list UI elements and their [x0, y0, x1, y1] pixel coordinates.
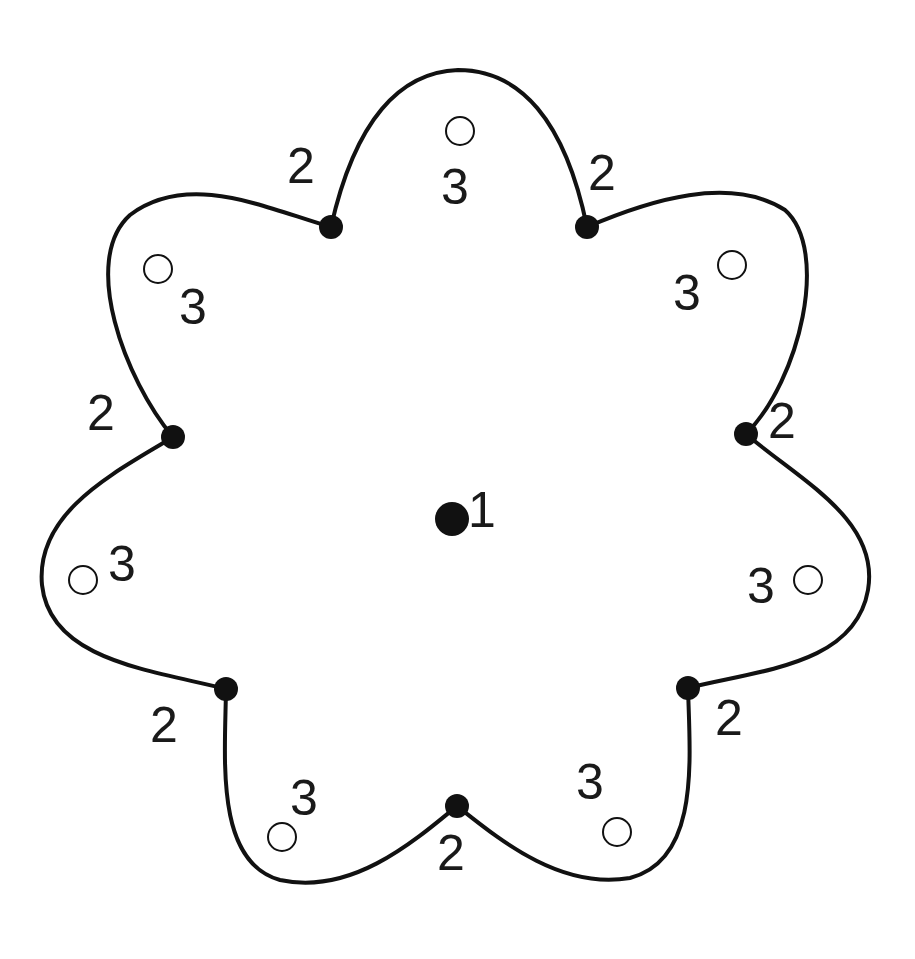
vertex-label: 2: [287, 138, 315, 194]
vertex-label: 2: [437, 825, 465, 881]
open-circle-label: 3: [179, 279, 207, 335]
vertex-dot: [319, 215, 343, 239]
open-circle: [144, 255, 172, 283]
vertex-dot: [575, 215, 599, 239]
open-circle: [446, 117, 474, 145]
vertex-dot: [445, 794, 469, 818]
open-circle-label: 3: [441, 159, 469, 215]
center-dot: [435, 502, 469, 536]
open-circle-label: 3: [290, 770, 318, 826]
open-circle: [268, 823, 296, 851]
vertex-dot: [734, 422, 758, 446]
vertex-label: 2: [150, 697, 178, 753]
diagram-canvas: 2222222 3333333 1: [0, 0, 915, 959]
vertex-label: 2: [768, 393, 796, 449]
open-circle-label: 3: [673, 265, 701, 321]
open-circle: [69, 566, 97, 594]
flower-diagram: 2222222 3333333 1: [0, 0, 915, 959]
open-circle: [603, 818, 631, 846]
open-circle-label: 3: [576, 754, 604, 810]
vertex-dot: [214, 677, 238, 701]
vertex-label: 2: [87, 385, 115, 441]
open-circle: [794, 566, 822, 594]
vertex-dot: [161, 425, 185, 449]
vertex-label: 2: [588, 145, 616, 201]
center-label: 1: [468, 482, 496, 538]
vertex-label: 2: [715, 690, 743, 746]
open-circle: [718, 251, 746, 279]
open-circle-label: 3: [747, 558, 775, 614]
vertex-dot: [676, 676, 700, 700]
open-circle-label: 3: [108, 536, 136, 592]
